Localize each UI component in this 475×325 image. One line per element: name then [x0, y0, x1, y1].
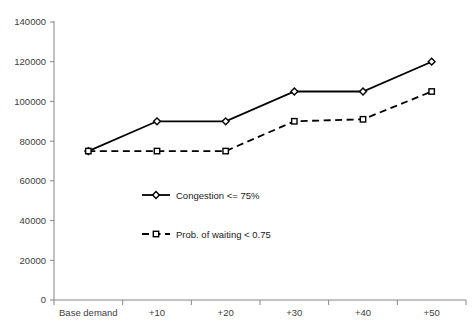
chart-title — [0, 0, 475, 10]
data-point-marker — [360, 117, 365, 122]
data-point-marker — [428, 58, 435, 65]
data-point-marker — [154, 118, 161, 125]
line-chart: 020000400006000080000100000120000140000 … — [0, 0, 475, 325]
x-tick-label: Base demand — [59, 307, 118, 318]
x-tick-label: +40 — [355, 307, 371, 318]
data-point-marker — [86, 148, 91, 153]
data-point-marker — [292, 119, 297, 124]
x-tick-label: +20 — [218, 307, 234, 318]
y-tick-label: 140000 — [14, 16, 46, 27]
series-solid — [85, 58, 435, 154]
data-point-marker — [153, 192, 160, 199]
data-point-marker — [360, 88, 367, 95]
value-axis: 020000400006000080000100000120000140000 — [14, 16, 54, 305]
data-point-marker — [222, 118, 229, 125]
x-tick-label: +30 — [286, 307, 302, 318]
y-tick-label: 100000 — [14, 96, 46, 107]
series-line — [88, 62, 431, 151]
y-tick-label: 60000 — [20, 175, 46, 186]
y-tick-label: 120000 — [14, 56, 46, 67]
y-tick-label: 20000 — [20, 255, 46, 266]
chart-canvas: 020000400006000080000100000120000140000 … — [0, 0, 475, 325]
data-point-marker — [154, 148, 159, 153]
x-tick-label: +10 — [149, 307, 165, 318]
y-tick-label: 0 — [41, 294, 46, 305]
legend-entry[interactable]: Congestion <= 75% — [142, 190, 260, 201]
chart-legend: Congestion <= 75%Prob. of waiting < 0.75 — [142, 190, 271, 240]
data-point-marker — [291, 88, 298, 95]
x-tick-label: +50 — [424, 307, 440, 318]
series-line — [88, 92, 431, 152]
data-point-marker — [153, 231, 158, 236]
legend-label: Prob. of waiting < 0.75 — [176, 229, 271, 240]
data-point-marker — [223, 148, 228, 153]
legend-entry[interactable]: Prob. of waiting < 0.75 — [142, 229, 271, 240]
legend-label: Congestion <= 75% — [176, 190, 260, 201]
series-dashed — [86, 89, 435, 154]
category-axis: Base demand+10+20+30+40+50 — [54, 300, 466, 318]
y-tick-label: 40000 — [20, 215, 46, 226]
series-container — [85, 58, 435, 154]
data-point-marker — [429, 89, 434, 94]
y-tick-label: 80000 — [20, 136, 46, 147]
